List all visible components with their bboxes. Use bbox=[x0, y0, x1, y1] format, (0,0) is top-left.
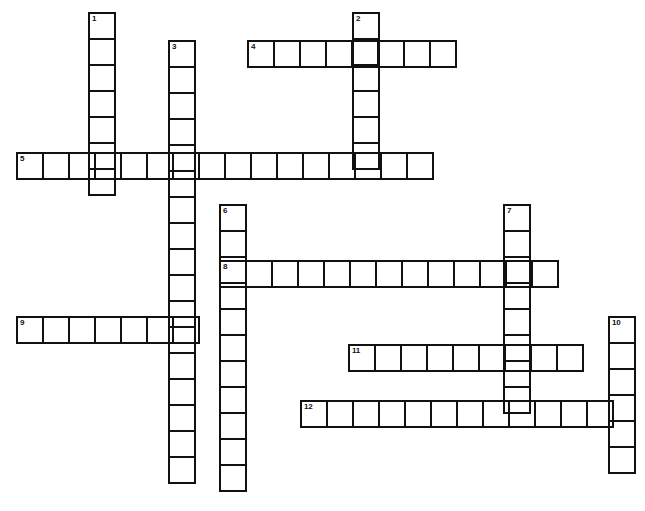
crossword-cell[interactable] bbox=[68, 152, 96, 180]
crossword-cell[interactable] bbox=[219, 464, 247, 492]
crossword-cell[interactable] bbox=[276, 152, 304, 180]
crossword-cell[interactable] bbox=[508, 400, 536, 428]
crossword-cell[interactable] bbox=[328, 152, 356, 180]
crossword-cell[interactable] bbox=[146, 316, 174, 344]
crossword-cell[interactable] bbox=[478, 344, 506, 372]
crossword-cell[interactable] bbox=[299, 40, 327, 68]
crossword-cell[interactable]: 4 bbox=[247, 40, 275, 68]
crossword-cell[interactable] bbox=[482, 400, 510, 428]
crossword-cell[interactable]: 5 bbox=[16, 152, 44, 180]
crossword-cell[interactable]: 2 bbox=[352, 12, 380, 40]
crossword-cell[interactable] bbox=[219, 360, 247, 388]
crossword-cell[interactable] bbox=[586, 400, 614, 428]
crossword-cell[interactable] bbox=[503, 308, 531, 336]
crossword-cell[interactable]: 7 bbox=[503, 204, 531, 232]
crossword-cell[interactable] bbox=[219, 230, 247, 258]
crossword-cell[interactable] bbox=[168, 248, 196, 276]
crossword-cell[interactable]: 10 bbox=[608, 316, 636, 344]
crossword-cell[interactable] bbox=[88, 64, 116, 92]
crossword-cell[interactable] bbox=[400, 344, 428, 372]
crossword-cell[interactable] bbox=[168, 378, 196, 406]
crossword-cell[interactable] bbox=[503, 230, 531, 258]
crossword-cell[interactable] bbox=[168, 66, 196, 94]
crossword-cell[interactable] bbox=[456, 400, 484, 428]
crossword-cell[interactable] bbox=[172, 316, 200, 344]
crossword-cell[interactable] bbox=[452, 344, 480, 372]
crossword-cell[interactable] bbox=[168, 118, 196, 146]
crossword-cell[interactable] bbox=[198, 152, 226, 180]
crossword-cell[interactable] bbox=[560, 400, 588, 428]
crossword-cell[interactable] bbox=[302, 152, 330, 180]
crossword-cell[interactable] bbox=[352, 116, 380, 144]
crossword-cell[interactable] bbox=[404, 400, 432, 428]
crossword-cell[interactable] bbox=[354, 152, 382, 180]
crossword-cell[interactable] bbox=[94, 152, 122, 180]
crossword-cell[interactable] bbox=[219, 386, 247, 414]
crossword-cell[interactable]: 6 bbox=[219, 204, 247, 232]
crossword-cell[interactable] bbox=[530, 344, 558, 372]
crossword-cell[interactable] bbox=[88, 116, 116, 144]
crossword-cell[interactable]: 12 bbox=[300, 400, 328, 428]
crossword-cell[interactable] bbox=[380, 152, 408, 180]
crossword-cell[interactable]: 11 bbox=[348, 344, 376, 372]
crossword-cell[interactable] bbox=[374, 344, 402, 372]
crossword-cell[interactable] bbox=[146, 152, 174, 180]
crossword-cell[interactable] bbox=[323, 260, 351, 288]
crossword-cell[interactable] bbox=[219, 412, 247, 440]
crossword-cell[interactable] bbox=[250, 152, 278, 180]
crossword-cell[interactable] bbox=[68, 316, 96, 344]
crossword-cell[interactable] bbox=[377, 40, 405, 68]
crossword-cell[interactable] bbox=[168, 404, 196, 432]
crossword-cell[interactable] bbox=[168, 352, 196, 380]
crossword-cell[interactable]: 9 bbox=[16, 316, 44, 344]
crossword-cell[interactable]: 1 bbox=[88, 12, 116, 40]
crossword-cell[interactable] bbox=[378, 400, 406, 428]
crossword-cell[interactable] bbox=[168, 92, 196, 120]
crossword-cell[interactable] bbox=[608, 342, 636, 370]
crossword-cell[interactable] bbox=[120, 152, 148, 180]
crossword-cell[interactable] bbox=[429, 40, 457, 68]
crossword-cell[interactable] bbox=[88, 38, 116, 66]
crossword-cell[interactable] bbox=[172, 152, 200, 180]
crossword-cell[interactable] bbox=[352, 400, 380, 428]
crossword-cell[interactable] bbox=[534, 400, 562, 428]
crossword-cell[interactable] bbox=[556, 344, 584, 372]
crossword-cell[interactable] bbox=[168, 222, 196, 250]
crossword-cell[interactable] bbox=[349, 260, 377, 288]
crossword-cell[interactable] bbox=[531, 260, 559, 288]
crossword-cell[interactable] bbox=[406, 152, 434, 180]
crossword-cell[interactable] bbox=[608, 446, 636, 474]
crossword-cell[interactable] bbox=[401, 260, 429, 288]
crossword-cell[interactable] bbox=[325, 40, 353, 68]
crossword-cell[interactable] bbox=[297, 260, 325, 288]
crossword-cell[interactable] bbox=[42, 316, 70, 344]
crossword-cell[interactable] bbox=[453, 260, 481, 288]
crossword-cell[interactable] bbox=[168, 456, 196, 484]
crossword-cell[interactable] bbox=[245, 260, 273, 288]
crossword-cell[interactable] bbox=[351, 40, 379, 68]
crossword-cell[interactable] bbox=[430, 400, 458, 428]
crossword-cell[interactable] bbox=[608, 368, 636, 396]
crossword-cell[interactable] bbox=[326, 400, 354, 428]
crossword-cell[interactable] bbox=[94, 316, 122, 344]
crossword-cell[interactable] bbox=[168, 196, 196, 224]
crossword-cell[interactable] bbox=[403, 40, 431, 68]
crossword-cell[interactable] bbox=[504, 344, 532, 372]
crossword-cell[interactable] bbox=[219, 308, 247, 336]
crossword-cell[interactable] bbox=[219, 438, 247, 466]
crossword-cell[interactable] bbox=[479, 260, 507, 288]
crossword-cell[interactable]: 8 bbox=[219, 260, 247, 288]
crossword-cell[interactable] bbox=[168, 274, 196, 302]
crossword-cell[interactable] bbox=[426, 344, 454, 372]
crossword-cell[interactable] bbox=[271, 260, 299, 288]
crossword-cell[interactable] bbox=[273, 40, 301, 68]
crossword-cell[interactable] bbox=[120, 316, 148, 344]
crossword-cell[interactable] bbox=[427, 260, 455, 288]
crossword-cell[interactable] bbox=[42, 152, 70, 180]
crossword-cell[interactable] bbox=[219, 334, 247, 362]
crossword-cell[interactable] bbox=[352, 64, 380, 92]
crossword-cell[interactable] bbox=[375, 260, 403, 288]
crossword-cell[interactable]: 3 bbox=[168, 40, 196, 68]
crossword-cell[interactable] bbox=[224, 152, 252, 180]
crossword-cell[interactable] bbox=[505, 260, 533, 288]
